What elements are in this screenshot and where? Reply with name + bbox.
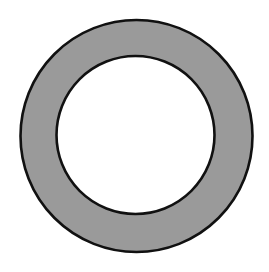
diagram-canvas — [0, 0, 269, 272]
annulus-diagram — [0, 0, 269, 272]
inner-circle — [57, 56, 215, 214]
